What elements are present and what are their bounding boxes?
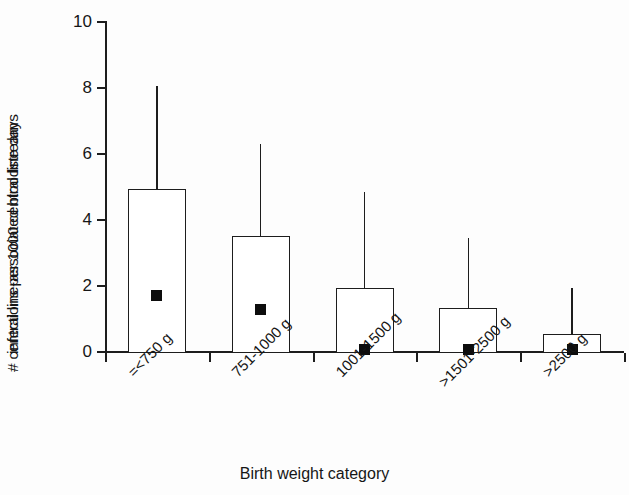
x-axis-tick bbox=[313, 353, 315, 362]
y-axis-tick bbox=[97, 153, 105, 155]
y-axis-tick-label: 8 bbox=[52, 79, 92, 96]
data-point-marker bbox=[151, 290, 162, 301]
y-axis-tick-label: 4 bbox=[52, 211, 92, 228]
y-axis-title: # central line-associated bloodstream in… bbox=[0, 0, 58, 380]
y-axis-tick-label: 10 bbox=[52, 13, 92, 30]
x-axis-tick bbox=[624, 353, 626, 362]
plot-area bbox=[105, 22, 624, 352]
chart-figure: # central line-associated bloodstream in… bbox=[0, 0, 629, 495]
error-bar-whisker bbox=[364, 192, 366, 288]
data-point-marker bbox=[255, 304, 266, 315]
y-axis-tick-label: 0 bbox=[52, 343, 92, 360]
x-axis-title: Birth weight category bbox=[0, 465, 629, 483]
y-axis-tick bbox=[97, 351, 105, 353]
y-axis-title-line-2: infections per 1000 central line days bbox=[4, 114, 22, 354]
x-axis-tick bbox=[520, 353, 522, 362]
error-bar-whisker bbox=[571, 288, 573, 334]
y-axis-tick bbox=[97, 21, 105, 23]
x-axis-tick bbox=[416, 353, 418, 362]
y-axis-tick bbox=[97, 285, 105, 287]
y-axis-tick bbox=[97, 219, 105, 221]
y-axis-tick bbox=[97, 87, 105, 89]
error-bar-whisker bbox=[468, 238, 470, 308]
bar bbox=[128, 189, 186, 352]
y-axis-tick-label: 6 bbox=[52, 145, 92, 162]
y-axis-tick-label: 2 bbox=[52, 277, 92, 294]
error-bar-whisker bbox=[260, 144, 262, 236]
error-bar-whisker bbox=[156, 86, 158, 189]
x-axis-tick bbox=[209, 353, 211, 362]
x-axis-tick bbox=[105, 353, 107, 362]
